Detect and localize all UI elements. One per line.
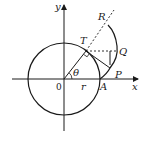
point-A-label: A bbox=[99, 81, 107, 92]
radius-label: r bbox=[81, 81, 87, 92]
y-axis-label: y bbox=[54, 1, 61, 12]
angle-label: θ bbox=[73, 67, 79, 78]
point-Q-label: Q bbox=[119, 46, 127, 57]
point-T-label: T bbox=[80, 35, 88, 46]
angle-arc bbox=[69, 73, 72, 79]
point-P-label: P bbox=[114, 69, 122, 80]
x-axis-label: x bbox=[132, 81, 138, 92]
geometry-diagram: y x 0 r θ A P Q T R bbox=[0, 0, 146, 143]
point-R-label: R bbox=[97, 11, 106, 22]
origin-label: 0 bbox=[56, 82, 62, 92]
right-angle-marker bbox=[84, 53, 90, 56]
